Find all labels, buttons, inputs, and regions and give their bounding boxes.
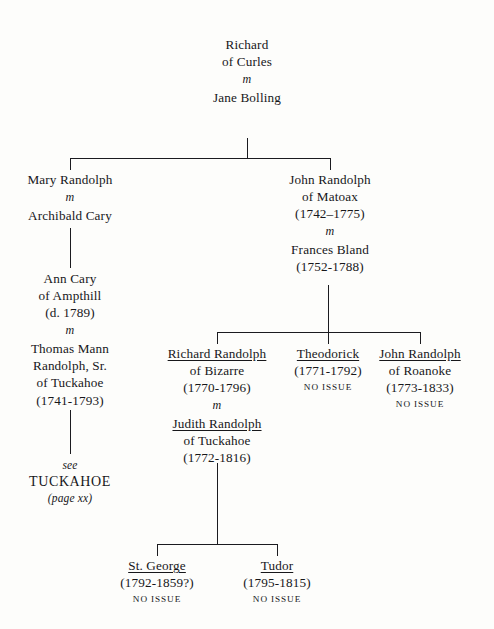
connector-matoax-drop <box>328 285 329 332</box>
node-dates: (1770-1796) <box>168 379 267 396</box>
node-place: of Matoax <box>289 188 370 205</box>
marriage-symbol: m <box>213 70 281 89</box>
node-dates: (1792-1859?) <box>120 574 194 591</box>
connector-ann-to-tuckahoe <box>70 410 71 454</box>
node-mary-randolph: Mary Randolph m Archibald Cary <box>27 171 112 224</box>
marriage-symbol: m <box>168 396 267 415</box>
connector-gen3-bar <box>217 332 421 333</box>
connector-gen3-left-tick <box>217 332 218 344</box>
node-name: Richard Randolph <box>168 345 267 362</box>
node-place: of Ampthill <box>31 287 109 304</box>
connector-gen3-mid-tick <box>328 332 329 344</box>
node-name: Tudor <box>243 557 311 574</box>
cross-reference-tuckahoe[interactable]: see TUCKAHOE (page xx) <box>29 458 111 506</box>
node-st-george: St. George (1792-1859?) NO ISSUE <box>120 557 194 606</box>
marriage-symbol: m <box>27 188 112 207</box>
node-spouse-line1: Thomas Mann <box>31 340 109 357</box>
node-spouse-dates: (1752-1788) <box>289 258 370 275</box>
node-spouse-place: of Tuckahoe <box>31 374 109 391</box>
node-dates: (1771-1792) <box>294 362 362 379</box>
node-name: Mary Randolph <box>27 171 112 188</box>
node-no-issue-note: NO ISSUE <box>243 591 311 606</box>
node-place: of Roanoke <box>379 362 460 379</box>
reference-page: (page xx) <box>29 491 111 506</box>
node-no-issue-note: NO ISSUE <box>294 379 362 394</box>
node-john-randolph-of-matoax: John Randolph of Matoax (1742–1775) m Fr… <box>289 171 370 275</box>
node-spouse: Judith Randolph <box>168 415 267 432</box>
node-dates: (1742–1775) <box>289 205 370 222</box>
connector-gen4-right-tick <box>277 544 278 556</box>
node-john-randolph-of-roanoke: John Randolph of Roanoke (1773-1833) NO … <box>379 345 460 411</box>
node-name: John Randolph <box>379 345 460 362</box>
connector-bizarre-drop <box>217 463 218 544</box>
connector-gen2-right-tick <box>330 158 331 170</box>
node-dates: (1795-1815) <box>243 574 311 591</box>
node-place: of Curles <box>213 53 281 70</box>
node-spouse: Jane Bolling <box>213 89 281 106</box>
connector-mary-to-ann <box>70 228 71 268</box>
node-name: Richard <box>213 36 281 53</box>
connector-gen4-bar <box>157 544 277 545</box>
node-name: Theodorick <box>294 345 362 362</box>
node-no-issue-note: NO ISSUE <box>379 396 460 411</box>
marriage-symbol: m <box>31 321 109 340</box>
reference-target: TUCKAHOE <box>29 473 111 491</box>
connector-gen1-drop <box>247 138 248 158</box>
node-spouse: Frances Bland <box>289 241 370 258</box>
node-name: John Randolph <box>289 171 370 188</box>
node-theodorick: Theodorick (1771-1792) NO ISSUE <box>294 345 362 394</box>
node-spouse: Archibald Cary <box>27 207 112 224</box>
see-label: see <box>29 458 111 473</box>
marriage-symbol: m <box>289 222 370 241</box>
connector-gen4-left-tick <box>157 544 158 556</box>
node-spouse-dates: (1741-1793) <box>31 392 109 409</box>
family-tree-diagram: Richard of Curles m Jane Bolling Mary Ra… <box>0 0 494 629</box>
connector-gen2-bar <box>70 158 330 159</box>
node-name: St. George <box>120 557 194 574</box>
node-place: of Bizarre <box>168 362 267 379</box>
node-name: Ann Cary <box>31 270 109 287</box>
node-tudor: Tudor (1795-1815) NO ISSUE <box>243 557 311 606</box>
connector-gen2-left-tick <box>70 158 71 170</box>
node-spouse-place: of Tuckahoe <box>168 432 267 449</box>
connector-gen3-right-tick <box>420 332 421 344</box>
node-ann-cary: Ann Cary of Ampthill (d. 1789) m Thomas … <box>31 270 109 409</box>
node-spouse-line2: Randolph, Sr. <box>31 357 109 374</box>
node-dates: (1773-1833) <box>379 379 460 396</box>
node-richard-of-curles: Richard of Curles m Jane Bolling <box>213 36 281 106</box>
node-no-issue-note: NO ISSUE <box>120 591 194 606</box>
node-richard-randolph-of-bizarre: Richard Randolph of Bizarre (1770-1796) … <box>168 345 267 467</box>
node-dates: (d. 1789) <box>31 304 109 321</box>
